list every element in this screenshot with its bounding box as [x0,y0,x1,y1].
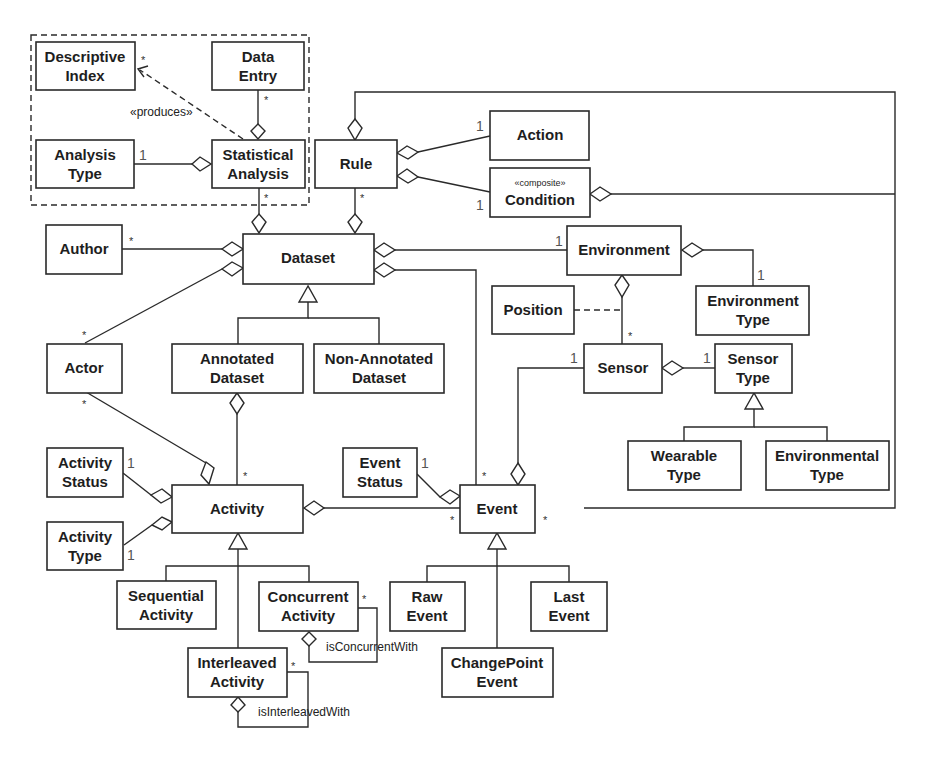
class-rule: Rule [315,140,397,188]
svg-text:Sequential: Sequential [128,587,204,604]
mult-sensortype: 1 [703,350,711,366]
mult-author: * [129,235,134,247]
generalization-triangle-icon [299,286,317,302]
assoc-activitystatus-activity [123,473,151,495]
svg-text:Statistical: Statistical [223,146,294,163]
aggregation-diamond-icon [397,146,418,159]
class-changepoint-event: ChangePoint Event [442,648,553,697]
class-environment-type: Environment Type [696,286,809,335]
svg-text:Status: Status [357,473,403,490]
aggregation-diamond-icon [151,489,172,503]
mult-descindex: * [141,54,146,66]
class-action: Action [490,111,589,160]
mult-statanalysis: * [264,192,269,204]
generalization-triangle-icon [488,533,506,549]
aggregation-diamond-icon [397,169,418,183]
class-analysis-type: Analysis Type [36,140,134,188]
svg-text:Data: Data [242,48,275,65]
class-activity: Activity [172,485,303,533]
class-actor: Actor [47,344,122,393]
svg-text:Last: Last [554,588,585,605]
svg-text:Actor: Actor [64,359,103,376]
svg-text:Dataset: Dataset [352,369,406,386]
svg-text:Type: Type [810,466,844,483]
class-last-event: Last Event [531,582,607,631]
svg-text:Condition: Condition [505,191,575,208]
gen-dataset [238,302,308,344]
generalization-triangle-icon [745,393,763,409]
svg-text:Analysis: Analysis [227,165,289,182]
svg-text:Dataset: Dataset [281,249,335,266]
svg-text:Rule: Rule [340,155,373,172]
assoc-rule-condition [418,177,490,192]
class-event: Event [460,485,535,533]
svg-text:Action: Action [517,126,564,143]
svg-text:Dataset: Dataset [210,369,264,386]
aggregation-diamond-icon [252,214,266,233]
gen-sensortype [684,409,754,441]
mult-event-dataset: * [482,470,487,482]
svg-text:Type: Type [68,547,102,564]
mult-eventstatus: 1 [421,455,429,471]
is-concurrent-with-label: isConcurrentWith [326,640,418,654]
class-concurrent-activity: Concurrent Activity [259,582,358,631]
class-statistical-analysis: Statistical Analysis [212,140,305,188]
svg-text:Sensor: Sensor [728,350,779,367]
mult-interleaved: * [291,660,296,672]
class-sequential-activity: Sequential Activity [117,581,216,629]
svg-text:Sensor: Sensor [598,359,649,376]
class-interleaved-activity: Interleaved Activity [188,648,287,697]
assoc-eventstatus-event [417,474,440,497]
assoc-environment-envtype [703,250,753,286]
svg-text:Environmental: Environmental [775,447,879,464]
gen-event-raw [427,566,569,582]
mult-activitystatus: 1 [127,455,135,471]
svg-text:Environment: Environment [578,241,670,258]
svg-text:Activity: Activity [210,673,265,690]
class-position: Position [492,286,574,334]
svg-text:Annotated: Annotated [200,350,274,367]
aggregation-diamond-icon [231,697,245,712]
mult-activity: * [243,470,248,482]
mult-environment: 1 [555,233,563,249]
svg-text:«composite»: «composite» [514,178,565,188]
svg-text:Concurrent: Concurrent [268,588,349,605]
svg-text:Activity: Activity [58,528,113,545]
mult-activitytype: 1 [127,547,135,563]
svg-text:Raw: Raw [412,588,443,605]
svg-text:Environment: Environment [707,292,799,309]
aggregation-diamond-icon [304,501,324,515]
aggregation-diamond-icon [230,393,244,414]
aggregation-diamond-icon [348,214,362,233]
mult-concurrent: * [362,593,367,605]
class-non-annotated-dataset: Non-Annotated Dataset [314,344,444,393]
mult-event-left: * [450,514,455,526]
produces-label: «produces» [130,105,193,119]
class-sensor: Sensor [584,344,662,393]
svg-text:Event: Event [549,607,590,624]
aggregation-diamond-icon [348,119,362,140]
class-descriptive-index: Descriptive Index [36,42,135,90]
generalization-triangle-icon [229,533,247,549]
class-annotated-dataset: Annotated Dataset [172,344,303,393]
aggregation-diamond-icon [511,463,525,485]
svg-text:Status: Status [62,473,108,490]
aggregation-diamond-icon [201,462,214,484]
class-activity-status: Activity Status [47,448,123,497]
mult-actor-dataset: * [82,329,87,341]
class-event-status: Event Status [343,448,417,497]
aggregation-diamond-icon [222,262,243,276]
class-wearable-type: Wearable Type [628,441,741,490]
svg-text:Type: Type [736,369,770,386]
svg-text:Analysis: Analysis [54,146,116,163]
mult-rule: * [360,192,365,204]
svg-text:Event: Event [477,673,518,690]
assoc-activitytype-activity [124,525,152,545]
svg-text:Type: Type [667,466,701,483]
aggregation-diamond-icon [222,242,243,256]
aggregation-diamond-icon [662,361,683,375]
mult-analysistype: 1 [139,147,147,163]
mult-action: 1 [476,118,484,134]
aggregation-diamond-icon [590,187,611,201]
class-data-entry: Data Entry [212,42,304,90]
